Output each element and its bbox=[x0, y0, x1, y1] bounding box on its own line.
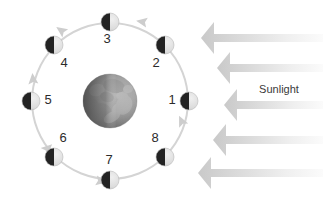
moon-phase-3 bbox=[101, 13, 119, 31]
moon-phase-5 bbox=[22, 92, 40, 110]
moon-phase-7 bbox=[101, 171, 119, 189]
sunlight-arrow-2 bbox=[217, 52, 323, 84]
moon-dark-half-4 bbox=[45, 36, 54, 54]
diagram-canvas: 12345678 Sunlight bbox=[0, 0, 323, 205]
phase-number-6: 6 bbox=[59, 130, 66, 145]
orbit-arrow-top-right bbox=[135, 16, 148, 28]
moon-dark-half-5 bbox=[22, 92, 31, 110]
moon-phase-4 bbox=[45, 36, 63, 54]
phase-number-3: 3 bbox=[103, 31, 110, 46]
moon-dark-half-1 bbox=[180, 92, 189, 110]
phase-number-2: 2 bbox=[152, 55, 159, 70]
moon-phase-2 bbox=[156, 36, 174, 54]
moon-phase-6 bbox=[45, 148, 63, 166]
sunlight-arrow-1 bbox=[201, 22, 323, 54]
orbit-arrow-top-left-head bbox=[53, 23, 68, 38]
orbit-arrow-top-right-head bbox=[135, 16, 148, 28]
sunlight-arrow-5 bbox=[198, 157, 323, 189]
earth-group bbox=[83, 74, 137, 128]
moon-phase-8 bbox=[156, 148, 174, 166]
sunlight-label: Sunlight bbox=[259, 83, 299, 95]
orbit-arrow-top-left bbox=[53, 23, 68, 38]
phase-number-4: 4 bbox=[60, 55, 67, 70]
phase-number-1: 1 bbox=[168, 92, 175, 107]
phase-number-5: 5 bbox=[44, 92, 51, 107]
moon-dark-half-7 bbox=[101, 171, 110, 189]
sunlight-arrows-group bbox=[198, 22, 323, 189]
moon-phases-diagram: 12345678 Sunlight bbox=[0, 0, 323, 205]
moon-phase-1 bbox=[180, 92, 198, 110]
phase-number-7: 7 bbox=[105, 152, 112, 167]
moon-dark-half-3 bbox=[101, 13, 110, 31]
sunlight-arrow-4 bbox=[213, 124, 323, 156]
phase-number-8: 8 bbox=[151, 130, 158, 145]
